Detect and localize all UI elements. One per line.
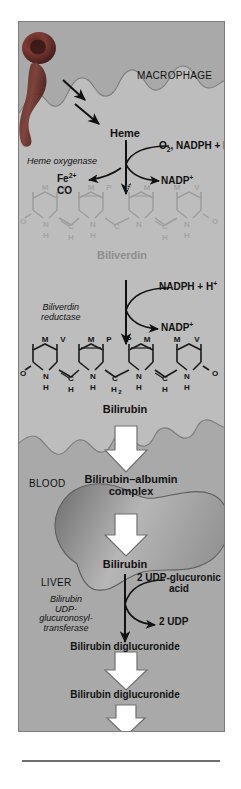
ugt-line1: Bilirubin — [50, 594, 82, 604]
macrophage-label: MACROPHAGE — [137, 71, 212, 82]
fe2-label: Fe2+ — [57, 172, 76, 185]
block-arrow-blood-to-liver — [105, 514, 147, 556]
figure-bottom-rule — [22, 760, 220, 762]
udp-glucuronic-acid-label: 2 UDP-glucuronic acid — [137, 573, 221, 595]
nadp-plus-1-label: NADP+ — [161, 174, 193, 187]
nadph-h-2-label: NADPH + H+ — [159, 280, 217, 293]
biliverdin-reductase-line2: reductase — [41, 312, 81, 322]
nadp-plus-2-label: NADP+ — [161, 321, 193, 334]
biliverdin-reductase-label: Biliverdin reductase — [41, 303, 81, 322]
block-arrow-to-bile — [107, 705, 145, 732]
block-arrow-liver-conjugation — [105, 652, 147, 690]
ugt-line2: UDP- — [55, 604, 77, 614]
ugt-line4: transferase — [43, 623, 88, 633]
heme-degradation-figure: MV MP PM MV OO NN NN HH H CC C HH Bilive… — [0, 0, 241, 789]
bilirubin-liver-label: Bilirubin — [103, 559, 148, 571]
blood-label: BLOOD — [29, 479, 66, 490]
o2-nadph-label: O2, NADPH + H+ — [159, 139, 225, 154]
udp-glucuronic-line2: acid — [169, 583, 189, 594]
udp-label: 2 UDP — [159, 617, 188, 628]
bilirubin-diglucuronide-label: Bilirubin diglucuronide — [70, 642, 179, 653]
udp-glucuronic-line1: 2 UDP-glucuronic — [137, 572, 221, 583]
bilirubin-diglucuronide-2-label: Bilirubin diglucuronide — [70, 690, 179, 701]
ugt-line3: glucuronosyl- — [39, 613, 93, 623]
biliverdin-reductase-line1: Biliverdin — [43, 302, 80, 312]
bilirubin-albumin-label: Bilirubin–albumin complex — [66, 474, 196, 498]
figure-panel: MV MP PM MV OO NN NN HH H CC C HH Bilive… — [18, 21, 225, 732]
heme-oxygenase-label: Heme oxygenase — [27, 157, 97, 167]
co-label: CO — [57, 186, 72, 197]
bilirubin-label: Bilirubin — [103, 404, 148, 416]
liver-label: LIVER — [41, 578, 71, 589]
ugt-enzyme-label: Bilirubin UDP- glucuronosyl- transferase — [27, 595, 105, 634]
heme-label: Heme — [110, 128, 140, 140]
block-arrow-bilirubin-to-blood — [105, 426, 147, 472]
